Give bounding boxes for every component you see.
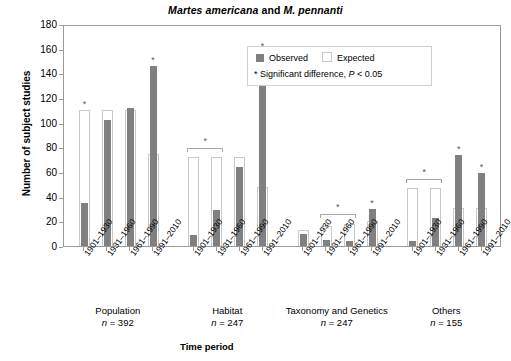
y-tick-label-160: 160 <box>21 45 57 55</box>
group-label-1: Habitatn = 247 <box>173 305 283 329</box>
significance-bracket-star-2-0: * <box>331 204 345 210</box>
y-tick-label-180: 180 <box>21 20 57 30</box>
group-name-3: Others <box>392 305 502 317</box>
group-label-3: Othersn = 155 <box>392 305 502 329</box>
group-name-2: Taxonomy and Genetics <box>282 305 392 317</box>
y-tick-label-140: 140 <box>21 69 57 79</box>
significance-star-3-2: * <box>452 146 466 152</box>
bar-expected-3-0 <box>407 188 418 246</box>
y-tick-label-60: 60 <box>21 168 57 178</box>
chart-legend: ObservedExpected * Significant differenc… <box>247 46 432 86</box>
legend-label-expected: Expected <box>337 53 375 63</box>
legend-significance-suffix: < 0.05 <box>354 69 382 79</box>
legend-significance-prefix: * Significant difference, <box>254 69 348 79</box>
significance-bracket-3-0 <box>406 179 442 183</box>
y-tick-label-120: 120 <box>21 94 57 104</box>
legend-swatch-expected <box>322 52 332 62</box>
legend-swatch-observed <box>256 54 264 62</box>
significance-star-2-3: * <box>365 200 379 206</box>
significance-bracket-star-3-0: * <box>417 169 431 175</box>
group-label-0: Populationn = 392 <box>63 305 173 329</box>
y-tick-label-80: 80 <box>21 143 57 153</box>
y-tick-label-0: 0 <box>21 242 57 252</box>
y-tick-label-100: 100 <box>21 119 57 129</box>
y-tick-label-20: 20 <box>21 217 57 227</box>
significance-star-0-0: * <box>77 101 91 107</box>
group-n-1: n = 247 <box>173 317 283 329</box>
chart-figure: Martes americana and M. pennanti Number … <box>0 0 511 361</box>
y-tick-mark-0 <box>59 247 63 248</box>
group-label-2: Taxonomy and Geneticsn = 247 <box>282 305 392 329</box>
legend-row-series: ObservedExpected <box>256 52 375 63</box>
significance-bracket-1-0 <box>187 148 223 152</box>
group-n-3: n = 155 <box>392 317 502 329</box>
significance-star-3-3: * <box>475 164 489 170</box>
group-name-0: Population <box>63 305 173 317</box>
significance-star-0-3: * <box>146 57 160 63</box>
group-name-1: Habitat <box>173 305 283 317</box>
legend-label-observed: Observed <box>269 53 308 63</box>
bar-expected-1-0 <box>188 157 199 246</box>
x-axis-title: Time period <box>180 341 234 352</box>
group-n-2: n = 247 <box>282 317 392 329</box>
significance-bracket-star-1-0: * <box>198 138 212 144</box>
group-n-0: n = 392 <box>63 317 173 329</box>
y-tick-label-40: 40 <box>21 193 57 203</box>
bar-observed-0-0 <box>81 203 88 246</box>
legend-row-significance: * Significant difference, P < 0.05 <box>254 69 382 79</box>
